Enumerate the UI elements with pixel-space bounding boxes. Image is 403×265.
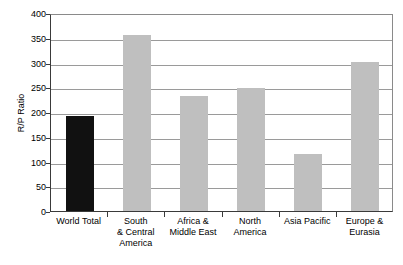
y-tick-label: 250: [4, 84, 46, 93]
gridline: [51, 65, 392, 66]
gridline: [51, 164, 392, 165]
x-axis-category-label: World Total: [50, 216, 107, 227]
x-axis-category-label-line: Europe &: [336, 216, 393, 227]
x-axis-category-label: NorthAmerica: [222, 216, 279, 238]
x-axis-category-label-line: America: [107, 238, 164, 249]
x-axis-category-label-line: World Total: [50, 216, 107, 227]
x-axis-category-label-line: Asia Pacific: [279, 216, 336, 227]
plot-area: [50, 14, 393, 212]
bar: [351, 62, 379, 211]
gridline: [51, 40, 392, 41]
bar-chart: R/P Ratio 050100150200250300350400 World…: [0, 0, 403, 265]
y-tick-label: 300: [4, 59, 46, 68]
x-axis-labels: World TotalSouth& CentralAmericaAfrica &…: [50, 216, 393, 262]
gridline: [51, 188, 392, 189]
bar: [180, 96, 208, 211]
x-axis-category-label-line: & Central: [107, 227, 164, 238]
bar: [237, 88, 265, 211]
y-tick-label: 400: [4, 10, 46, 19]
y-tick-label: 0: [4, 208, 46, 217]
bar: [66, 116, 94, 211]
x-axis-category-label-line: North: [222, 216, 279, 227]
x-axis-category-label: Asia Pacific: [279, 216, 336, 227]
x-axis-category-label: Europe &Eurasia: [336, 216, 393, 238]
x-axis-category-label-line: Africa &: [164, 216, 221, 227]
x-axis-category-label-line: America: [222, 227, 279, 238]
y-tick-label: 200: [4, 109, 46, 118]
bar: [294, 154, 322, 211]
x-axis-category-label: Africa &Middle East: [164, 216, 221, 238]
gridline: [51, 89, 392, 90]
y-tick-label: 100: [4, 158, 46, 167]
y-tick-label: 350: [4, 34, 46, 43]
y-tick-label: 50: [4, 183, 46, 192]
bar: [123, 35, 151, 211]
y-tick-label: 150: [4, 133, 46, 142]
x-axis-category-label: South& CentralAmerica: [107, 216, 164, 249]
gridline: [51, 114, 392, 115]
x-axis-category-label-line: Eurasia: [336, 227, 393, 238]
x-axis-category-label-line: South: [107, 216, 164, 227]
x-axis-category-label-line: Middle East: [164, 227, 221, 238]
y-tick-mark: [46, 212, 50, 213]
gridline: [51, 139, 392, 140]
